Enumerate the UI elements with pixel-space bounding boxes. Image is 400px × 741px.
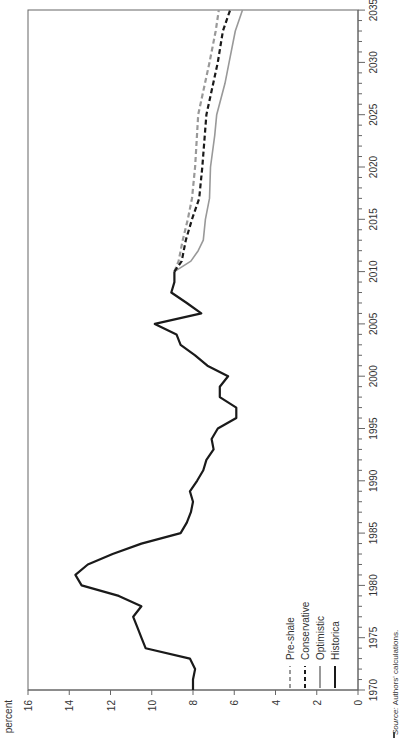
- series-layer: [75, 10, 242, 690]
- legend: Pre-shaleConservativeOptimisticHistorica: [285, 601, 341, 688]
- year-tick-label: 2010: [368, 260, 379, 283]
- percent-tick-label: 10: [147, 700, 158, 712]
- legend-label: Optimistic: [315, 616, 326, 660]
- percent-tick-label: 12: [106, 700, 117, 712]
- year-tick-label: 2035: [368, 0, 379, 21]
- year-tick-label: 1995: [368, 417, 379, 440]
- page-mark: [393, 732, 395, 738]
- series-pre-shale-line: [174, 10, 218, 272]
- year-tick-label: 1975: [368, 626, 379, 649]
- year-tick-label: 1980: [368, 574, 379, 597]
- legend-label: Pre-shale: [285, 617, 296, 660]
- percent-tick-label: 6: [229, 700, 240, 706]
- percent-tick-label: 8: [188, 700, 199, 706]
- series-conservative-line: [174, 10, 230, 272]
- percent-tick-label: 2: [312, 700, 323, 706]
- rotated-line-chart: 0246810121416percent 1970197519801985199…: [0, 0, 400, 741]
- legend-label: Conservative: [300, 601, 311, 660]
- year-tick-label: 1985: [368, 522, 379, 545]
- source-note: Source: Authors' calculations.: [391, 630, 400, 735]
- legend-label: Historica: [330, 621, 341, 660]
- year-tick-label: 2030: [368, 51, 379, 74]
- year-axis: 1970197519801985199019952000200520102015…: [358, 0, 379, 701]
- year-tick-label: 2015: [368, 208, 379, 231]
- percent-tick-label: 4: [271, 700, 282, 706]
- percent-axis-title: percent: [3, 700, 14, 734]
- percent-tick-label: 0: [353, 700, 364, 706]
- percent-tick-label: 16: [23, 700, 34, 712]
- year-tick-label: 2000: [368, 365, 379, 388]
- year-tick-label: 2020: [368, 155, 379, 178]
- percent-tick-label: 14: [64, 700, 75, 712]
- year-tick-label: 1990: [368, 469, 379, 492]
- percent-axis: 0246810121416percent: [3, 690, 364, 733]
- source-text: Source: Authors' calculations.: [391, 630, 400, 735]
- year-tick-label: 1970: [368, 678, 379, 701]
- year-tick-label: 2025: [368, 103, 379, 126]
- year-tick-label: 2005: [368, 312, 379, 335]
- plot-frame: [28, 10, 358, 690]
- series-historica-line: [75, 272, 236, 690]
